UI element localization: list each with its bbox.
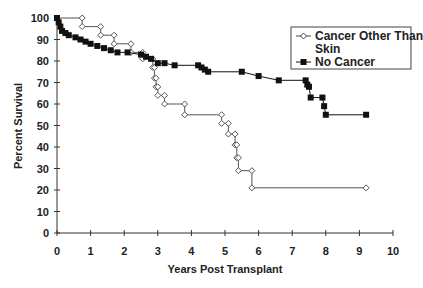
y-axis-title: Percent Survival	[12, 83, 24, 169]
filled-square-marker	[125, 49, 131, 55]
y-tick-label: 90	[37, 34, 49, 46]
open-diamond-marker	[249, 168, 255, 174]
filled-square-marker	[323, 112, 329, 118]
open-diamond-marker	[363, 185, 369, 191]
legend-label-cancer-line1: Cancer Other Than	[315, 29, 423, 43]
open-diamond-marker	[162, 101, 168, 107]
open-diamond-marker	[249, 185, 255, 191]
filled-square-marker	[94, 43, 100, 49]
y-tick-label: 60	[37, 98, 49, 110]
filled-square-icon	[301, 59, 307, 65]
filled-square-marker	[239, 69, 245, 75]
x-tick-label: 1	[88, 245, 94, 257]
filled-square-marker	[172, 62, 178, 68]
open-diamond-marker	[111, 41, 117, 47]
legend: Cancer Other Than Skin No Cancer	[291, 27, 423, 69]
open-diamond-marker	[225, 131, 231, 137]
y-tick-label: 50	[37, 120, 49, 132]
y-tick-label: 100	[31, 12, 49, 24]
open-diamond-marker	[79, 15, 85, 21]
filled-square-marker	[256, 73, 262, 79]
x-tick-label: 9	[356, 245, 362, 257]
filled-square-marker	[205, 69, 211, 75]
filled-square-marker	[155, 60, 161, 66]
y-tick-label: 20	[37, 184, 49, 196]
open-diamond-marker	[111, 32, 117, 38]
open-diamond-marker	[155, 92, 161, 98]
open-diamond-marker	[128, 41, 134, 47]
open-diamond-marker	[98, 24, 104, 30]
filled-square-marker	[319, 95, 325, 101]
y-tick-label: 10	[37, 206, 49, 218]
filled-square-marker	[363, 112, 369, 118]
y-tick-label: 80	[37, 55, 49, 67]
legend-label-no-cancer: No Cancer	[315, 55, 375, 69]
survival-chart: 0102030405060708090100012345678910 Perce…	[0, 0, 423, 288]
open-diamond-marker	[225, 120, 231, 126]
x-tick-label: 6	[256, 245, 262, 257]
y-tick-label: 40	[37, 141, 49, 153]
filled-square-marker	[162, 60, 168, 66]
filled-square-marker	[88, 41, 94, 47]
filled-square-marker	[306, 84, 312, 90]
filled-square-marker	[108, 47, 114, 53]
y-tick-label: 0	[43, 227, 49, 239]
filled-square-marker	[276, 77, 282, 83]
y-tick-label: 30	[37, 163, 49, 175]
filled-square-marker	[66, 32, 72, 38]
y-tick-label: 70	[37, 77, 49, 89]
x-tick-label: 7	[289, 245, 295, 257]
open-diamond-marker	[219, 120, 225, 126]
x-tick-label: 10	[387, 245, 399, 257]
x-tick-label: 8	[323, 245, 329, 257]
open-diamond-marker	[98, 32, 104, 38]
x-tick-label: 5	[222, 245, 228, 257]
open-diamond-marker	[232, 131, 238, 137]
filled-square-marker	[114, 49, 120, 55]
x-tick-label: 0	[54, 245, 60, 257]
x-tick-label: 4	[188, 245, 195, 257]
legend-label-cancer-line2: Skin	[315, 42, 340, 56]
filled-square-marker	[148, 56, 154, 62]
open-diamond-marker	[182, 112, 188, 118]
filled-square-marker	[308, 95, 314, 101]
x-tick-label: 3	[155, 245, 161, 257]
x-axis-title: Years Post Transplant	[168, 263, 283, 275]
filled-square-marker	[321, 103, 327, 109]
open-diamond-marker	[182, 101, 188, 107]
open-diamond-marker	[235, 168, 241, 174]
open-diamond-marker	[162, 92, 168, 98]
open-diamond-marker	[79, 24, 85, 30]
x-tick-label: 2	[121, 245, 127, 257]
filled-square-marker	[101, 45, 107, 51]
open-diamond-marker	[219, 112, 225, 118]
